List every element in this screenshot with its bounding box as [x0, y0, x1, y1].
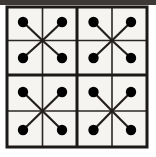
dot-top-left	[18, 87, 28, 97]
dot-top-left	[88, 87, 98, 97]
dot-bottom-right	[57, 125, 67, 135]
dot-bottom-right	[126, 125, 136, 135]
dot-bottom-left	[18, 53, 28, 63]
dot-top-right	[126, 17, 136, 27]
figure-root: 4x4 grid with four X-shaped dot clusters…	[0, 0, 156, 157]
dot-top-left	[18, 17, 28, 27]
dot-bottom-left	[18, 125, 28, 135]
dot-top-right	[57, 87, 67, 97]
dot-top-right	[126, 87, 136, 97]
grid-dot-figure: 4x4 grid with four X-shaped dot clusters…	[0, 0, 156, 157]
dot-bottom-right	[126, 53, 136, 63]
dot-bottom-right	[57, 53, 67, 63]
dot-top-left	[88, 17, 98, 27]
top-dark-band	[0, 0, 156, 5]
dot-bottom-left	[88, 53, 98, 63]
dot-top-right	[57, 17, 67, 27]
dot-bottom-left	[88, 125, 98, 135]
